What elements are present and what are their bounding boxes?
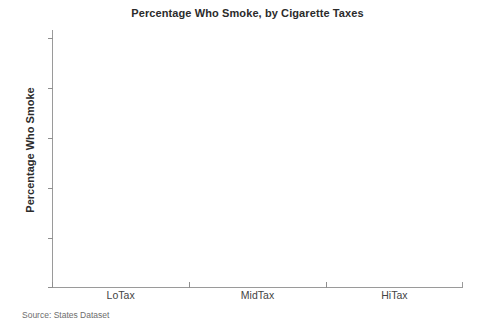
y-axis-line — [52, 30, 53, 288]
y-axis-tick — [48, 188, 53, 189]
plot-area — [52, 30, 463, 288]
x-tick-label-lotax: LoTax — [107, 289, 135, 301]
x-axis-tick — [326, 282, 327, 288]
x-tick-label-midtax: MidTax — [241, 289, 274, 301]
chart-title: Percentage Who Smoke, by Cigarette Taxes — [0, 7, 495, 19]
y-axis-tick — [48, 88, 53, 89]
source-note: Source: States Dataset — [22, 310, 109, 320]
chart-figure: Percentage Who Smoke, by Cigarette Taxes… — [0, 0, 495, 332]
x-axis-tick-labels: LoTax MidTax HiTax — [52, 289, 463, 305]
x-axis-end-cap — [462, 282, 463, 288]
y-axis-title: Percentage Who Smoke — [21, 60, 39, 240]
x-axis-tick — [189, 282, 190, 288]
y-axis-tick — [48, 138, 53, 139]
y-axis-title-text: Percentage Who Smoke — [24, 87, 36, 212]
x-tick-label-hitax: HiTax — [381, 289, 407, 301]
y-axis-tick — [48, 38, 53, 39]
y-axis-tick — [48, 238, 53, 239]
x-axis-line — [52, 287, 463, 288]
x-axis-tick — [52, 282, 53, 288]
